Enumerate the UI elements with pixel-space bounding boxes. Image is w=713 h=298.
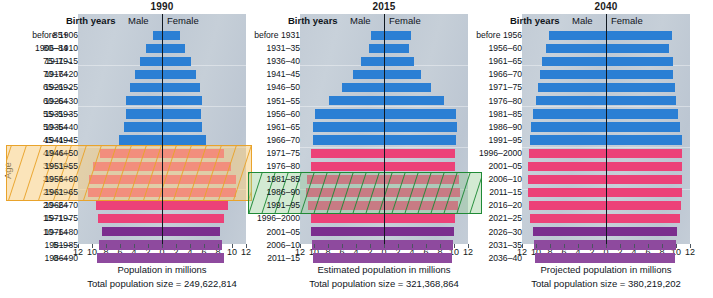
birth-years-label: 1986–90	[2, 252, 81, 265]
bar-female	[606, 214, 680, 223]
x-tick	[550, 244, 551, 248]
birth-years-label: 1941–45	[2, 134, 81, 147]
x-ticks	[300, 244, 468, 249]
bar-female	[606, 188, 682, 197]
x-tick	[246, 244, 247, 248]
bar-female	[384, 149, 455, 158]
center-axis	[606, 14, 607, 244]
bar-male	[528, 175, 606, 184]
bar-female	[606, 135, 682, 144]
bar-male	[549, 31, 606, 40]
bar-female	[384, 31, 411, 40]
bar-male	[540, 70, 606, 79]
bar-male	[542, 57, 606, 66]
bar-male	[531, 122, 606, 131]
bar-male	[529, 149, 606, 158]
bar-male	[329, 96, 384, 105]
birth-years-label: 2036–40	[446, 252, 525, 265]
bar-male	[533, 109, 606, 118]
x-tick	[412, 244, 413, 248]
birth-years-label: 1926–30	[2, 95, 81, 108]
bar-male	[353, 70, 384, 79]
bar-male	[124, 122, 162, 131]
bar-male	[102, 227, 162, 236]
bar-female	[384, 227, 454, 236]
bar-female	[162, 96, 202, 105]
birth-years-label: 1951–55	[2, 160, 81, 173]
header-male: Male	[572, 15, 593, 26]
bar-female	[162, 70, 196, 79]
x-tick	[662, 244, 663, 248]
bar-female	[162, 83, 200, 92]
birth-years-label: 1971–75	[224, 147, 303, 160]
bar-female	[384, 83, 431, 92]
birth-years-label: 1941–45	[224, 68, 303, 81]
x-tick	[120, 244, 121, 248]
bar-male	[528, 162, 606, 171]
birth-years-label: 2011–15	[224, 252, 303, 265]
x-tick	[176, 244, 177, 248]
x-tick	[690, 244, 691, 248]
bar-male	[313, 122, 384, 131]
bar-female	[162, 122, 202, 131]
bar-male	[311, 162, 384, 171]
x-tick	[204, 244, 205, 248]
x-ticks	[522, 244, 690, 249]
bar-male	[313, 253, 384, 262]
birth-years-label: 1911–15	[2, 55, 81, 68]
birth-years-label: 2026–30	[446, 226, 525, 239]
birth-years-label: 1986–90	[446, 121, 525, 134]
birth-years-label: 1966–70	[2, 199, 81, 212]
birth-years-label: 1961–65	[446, 55, 525, 68]
bar-male	[342, 83, 384, 92]
bar-female	[606, 175, 682, 184]
birth-years-label: before 1931	[224, 29, 303, 42]
bar-female	[162, 214, 224, 223]
birth-years-label: 1976–80	[446, 95, 525, 108]
birth-years-label: 1971–75	[446, 81, 525, 94]
axis-caption: Projected population in millions	[482, 264, 713, 275]
bar-male	[369, 44, 384, 53]
bar-female	[606, 162, 682, 171]
bar-female	[606, 122, 680, 131]
bar-female	[162, 227, 220, 236]
bar-male	[119, 135, 162, 144]
birth-years-label: 1956–60	[224, 108, 303, 121]
bar-female	[162, 135, 206, 144]
x-tick	[398, 244, 399, 248]
bar-female	[606, 201, 681, 210]
birth-years-label: 1981–85	[224, 173, 303, 186]
bar-male	[126, 96, 162, 105]
birth-years-label: 1976–80	[2, 226, 81, 239]
birth-years-label: 1986–90	[224, 186, 303, 199]
center-axis	[162, 14, 163, 244]
bar-female	[162, 109, 201, 118]
x-tick	[440, 244, 441, 248]
bar-male	[96, 201, 162, 210]
birth-years-label: 1956–60	[2, 173, 81, 186]
bar-female	[162, 44, 185, 53]
x-tick	[106, 244, 107, 248]
x-tick	[676, 244, 677, 248]
birth-years-label: 1931–35	[224, 42, 303, 55]
birth-years-label: 1991–95	[446, 134, 525, 147]
x-tick	[606, 244, 607, 248]
bar-female	[384, 214, 455, 223]
x-tick	[370, 244, 371, 248]
birth-years-label: 1916–20	[2, 68, 81, 81]
bar-female	[606, 253, 675, 262]
x-tick	[342, 244, 343, 248]
birth-years-label: 2021–25	[446, 212, 525, 225]
x-tick	[426, 244, 427, 248]
birth-years-label: 1991–95	[224, 199, 303, 212]
x-tick	[328, 244, 329, 248]
birth-years-label: 1961–65	[2, 186, 81, 199]
x-tick	[384, 244, 385, 248]
x-ticks	[78, 244, 246, 249]
birth-years-label: before 1956	[446, 29, 525, 42]
birth-years-label: 1921–25	[2, 81, 81, 94]
bar-male	[140, 57, 162, 66]
bar-male	[97, 253, 162, 262]
x-tick	[314, 244, 315, 248]
bar-male	[98, 214, 162, 223]
